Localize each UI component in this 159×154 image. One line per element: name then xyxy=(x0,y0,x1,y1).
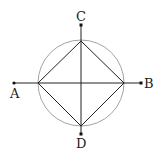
label-C: C xyxy=(76,9,86,24)
point-B xyxy=(140,82,143,85)
label-A: A xyxy=(9,86,20,101)
geometry-diagram: A B C D xyxy=(0,0,159,154)
label-D: D xyxy=(76,136,86,151)
point-A xyxy=(12,81,15,84)
label-B: B xyxy=(144,76,154,91)
